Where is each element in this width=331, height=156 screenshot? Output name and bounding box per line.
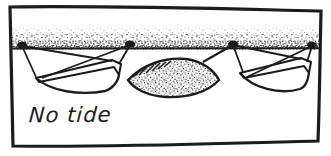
figure-canvas [0,0,331,156]
caption-no-tide: No tide [28,102,112,129]
illustration-panel: No tide [0,0,331,156]
shore-stipple-band [9,24,321,50]
